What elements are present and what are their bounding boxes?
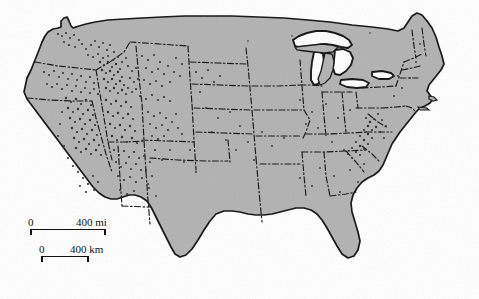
scale-km-max-label: 400 km [70,243,103,256]
lake-ontario [372,71,394,79]
scale-bar-block: 0 400 mi 0 400 km [18,216,138,272]
scale-km-tick-start [41,256,43,262]
scale-km-bar-line [41,256,89,257]
scale-km-tick-end [87,256,89,262]
scale-miles-tick-end [104,229,106,235]
scale-miles-zero-label: 0 [28,216,34,229]
long-island-detail [418,107,429,110]
scale-km-bar [18,256,138,265]
scale-miles-bar-line [30,229,106,230]
border-nm-south [122,206,150,207]
map-figure: 0 400 mi 0 400 km [0,0,479,299]
scale-miles-max-label: 400 mi [76,216,107,229]
scale-miles-bar [18,229,138,238]
scale-miles-labels: 0 400 mi [18,216,138,229]
scale-km-zero-label: 0 [39,243,45,256]
scale-miles-tick-start [30,229,32,235]
lake-erie [340,79,369,88]
scale-km-labels: 0 400 km [18,243,138,256]
cape-detail [429,96,437,101]
